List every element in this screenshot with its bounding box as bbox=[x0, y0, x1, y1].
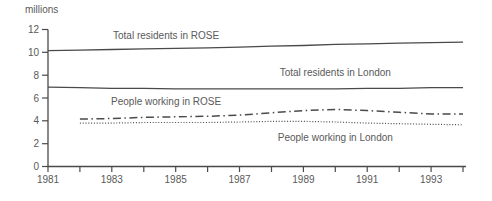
y-tick-label: 4 bbox=[33, 115, 39, 126]
x-tick-label: 1985 bbox=[165, 174, 188, 185]
y-tick-label: 2 bbox=[33, 138, 39, 149]
series-label: Total residents in London bbox=[280, 67, 391, 78]
y-tick-label: 12 bbox=[28, 24, 40, 35]
series-line-total-residents-in-rose bbox=[48, 42, 463, 51]
y-tick-label: 8 bbox=[33, 70, 39, 81]
x-tick-label: 1989 bbox=[292, 174, 315, 185]
y-tick-label: 10 bbox=[28, 47, 40, 58]
x-tick-label: 1991 bbox=[356, 174, 379, 185]
series-label: Total residents in ROSE bbox=[113, 30, 219, 41]
y-tick-label: 0 bbox=[33, 161, 39, 172]
chart-canvas: 0246810121981198319851987198919911993Tot… bbox=[0, 0, 492, 201]
y-tick-label: 6 bbox=[33, 93, 39, 104]
series-line-total-residents-in-london bbox=[48, 87, 463, 89]
series-line-people-working-in-rose bbox=[80, 109, 463, 119]
x-tick-label: 1983 bbox=[101, 174, 124, 185]
x-tick-label: 1987 bbox=[228, 174, 251, 185]
population-employment-line-chart: millions 0246810121981198319851987198919… bbox=[0, 0, 492, 201]
series-label: People working in ROSE bbox=[111, 96, 221, 107]
series-line-people-working-in-london bbox=[80, 121, 463, 124]
x-tick-label: 1993 bbox=[420, 174, 443, 185]
x-tick-label: 1981 bbox=[37, 174, 60, 185]
series-label: People working in London bbox=[278, 132, 393, 143]
